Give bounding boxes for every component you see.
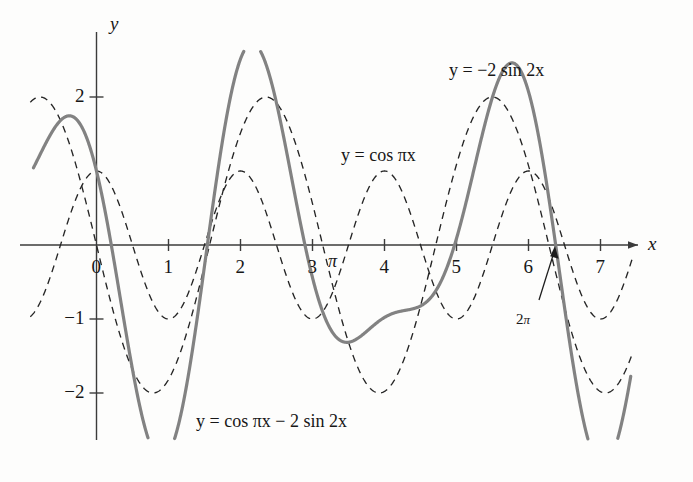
two-pi-marker-label: 2π (516, 312, 530, 327)
x-axis-arrowhead (628, 241, 638, 249)
x-tick-label: 5 (452, 257, 462, 276)
plot-canvas (0, 0, 693, 482)
two-pi-prefix: 2 (516, 311, 524, 327)
axes-group (20, 32, 638, 440)
pi-marker-label: π (328, 252, 337, 270)
y-tick-label: −2 (64, 382, 84, 401)
figure-container: y x 01234567 2−1−2 π 2π y = −2 sin 2x y … (0, 0, 693, 482)
x-tick-label: 7 (596, 257, 606, 276)
y-tick-label: −1 (64, 308, 84, 327)
x-tick-label: 4 (380, 257, 390, 276)
y-axis-name: y (110, 14, 118, 33)
two-pi-symbol: π (524, 312, 531, 327)
x-tick-label: 1 (164, 257, 174, 276)
label-cos-pix: y = cos πx (341, 146, 416, 164)
x-tick-label: 0 (92, 257, 102, 276)
x-axis-name: x (648, 234, 656, 253)
x-tick-label: 2 (236, 257, 246, 276)
x-tick-label: 6 (524, 257, 534, 276)
x-tick-label: 3 (308, 257, 318, 276)
label-sum: y = cos πx − 2 sin 2x (196, 412, 347, 430)
label-minus-two-sin: y = −2 sin 2x (449, 61, 544, 79)
y-tick-label: 2 (75, 86, 85, 105)
